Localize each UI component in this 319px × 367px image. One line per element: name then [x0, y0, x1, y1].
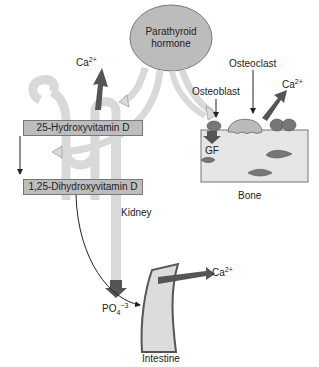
vitamin-d-125-box: 1,25-Dihydroxyvitamin D [23, 179, 143, 195]
intestine-calcium-label: Ca2+ [212, 264, 233, 279]
ion-charge: 2+ [295, 78, 303, 85]
ion-base: Ca [212, 267, 225, 278]
pth-to-vitd-arrow [60, 70, 160, 152]
kidney-label: Kidney [121, 207, 152, 219]
osteoblast-label: Osteoblast [192, 86, 240, 98]
bone-calcium-arrow [262, 90, 287, 121]
gf-label: GF [205, 145, 219, 157]
bone-label: Bone [238, 190, 261, 202]
ion-base: Ca [76, 57, 89, 68]
ion-charge: −3 [120, 302, 128, 309]
ion-subscript: 4 [116, 309, 120, 316]
ion-base: Ca [282, 79, 295, 90]
phosphate-label: PO4−3 [102, 300, 128, 319]
parathyroid-label: Parathyroid hormone [130, 26, 212, 50]
osteoclast-cell [228, 119, 262, 133]
pth-to-kidney-arrow [125, 68, 145, 100]
kidney-calcium-label: Ca2+ [76, 54, 97, 69]
vitamin-d-25-box: 25-Hydroxyvitamin D [23, 120, 143, 136]
pth-line2: hormone [130, 38, 212, 50]
pth-line1: Parathyroid [130, 26, 212, 38]
ion-charge: 2+ [89, 56, 97, 63]
osteoclast-label: Osteoclast [229, 58, 276, 70]
intestine-label: Intestine [142, 353, 180, 365]
bone-calcium-label: Ca2+ [282, 76, 303, 91]
ion-charge: 2+ [225, 266, 233, 273]
ion-base: PO [102, 303, 116, 314]
phosphate-arrow [105, 280, 127, 298]
